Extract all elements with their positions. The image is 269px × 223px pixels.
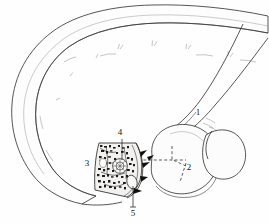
anatomical-figure: 1 2 3 4 5 xyxy=(0,0,269,223)
callout-label-4: 4 xyxy=(118,127,123,137)
marrow-pocket-b xyxy=(100,159,107,168)
callout-label-2: 2 xyxy=(187,162,192,172)
callout-label-3: 3 xyxy=(85,158,90,168)
callout-label-1: 1 xyxy=(196,107,201,117)
lobe-secondary xyxy=(203,130,246,179)
figure-root: 1 2 3 4 5 xyxy=(0,0,269,223)
callout-label-5: 5 xyxy=(131,208,136,218)
